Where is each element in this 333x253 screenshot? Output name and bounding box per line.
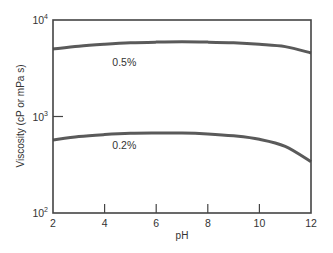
x-tick-label: 10 — [254, 217, 266, 229]
x-axis-ticks: 24681012 — [50, 204, 317, 229]
plot-frame — [53, 20, 311, 213]
series-label: 0.2% — [112, 139, 136, 151]
series-line-02 — [53, 133, 311, 162]
x-tick-label: 12 — [305, 217, 317, 229]
series-label: 0.5% — [112, 56, 136, 68]
y-tick-label: 104 — [32, 13, 48, 26]
x-tick-label: 2 — [50, 217, 56, 229]
y-axis-label: Viscosity (cP or mPa s) — [15, 65, 26, 168]
series-labels: 0.5%0.2% — [112, 56, 136, 151]
y-tick-label: 103 — [32, 110, 48, 123]
x-tick-label: 4 — [102, 217, 108, 229]
x-tick-label: 8 — [205, 217, 211, 229]
viscosity-vs-ph-chart: 24681012 102103104 pH Viscosity (cP or m… — [0, 0, 333, 253]
y-tick-label: 102 — [32, 206, 48, 219]
x-tick-label: 6 — [153, 217, 159, 229]
plot-curves — [53, 42, 311, 162]
y-axis-ticks: 102103104 — [32, 13, 63, 219]
series-line-05 — [53, 42, 311, 53]
x-axis-label: pH — [176, 230, 189, 241]
